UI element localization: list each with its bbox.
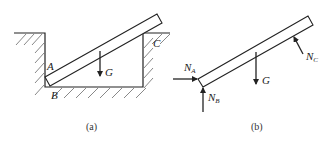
caption-a: (a) [86, 121, 97, 133]
force-nb-label: NB [207, 91, 220, 105]
force-nc-label: NC [305, 50, 318, 64]
label-g: G [105, 66, 113, 78]
caption-b: (b) [251, 121, 263, 133]
ground-hatch [16, 34, 170, 98]
figure-a: A B C G (a) [14, 14, 170, 133]
label-a: A [46, 60, 54, 72]
figure-canvas: A B C G (a) NA NB G NC (b) [0, 0, 327, 147]
rod [45, 14, 162, 86]
label-b: B [51, 89, 58, 101]
force-nc-arrow [294, 37, 303, 54]
label-c: C [153, 37, 161, 49]
figure-b: NA NB G NC (b) [173, 16, 318, 133]
force-na-label: NA [183, 61, 196, 75]
force-g-label: G [262, 74, 270, 86]
